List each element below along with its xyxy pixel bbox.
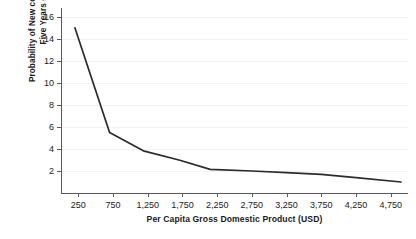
x-tick-label: 3,250 [275,200,298,210]
x-tick-mark [356,193,357,197]
x-tick-mark [182,193,183,197]
x-tick-mark [113,193,114,197]
y-tick-label: 2 [49,166,54,176]
x-tick-label: 1,750 [171,200,194,210]
x-tick-label: 4,750 [379,200,402,210]
y-axis-title-line1: Probability of New conflict within [27,0,38,82]
x-axis-title: Per Capita Gross Domestic Product (USD) [61,214,408,224]
y-tick-label: 10 [44,78,54,88]
x-tick-label: 250 [71,200,86,210]
x-tick-mark [287,193,288,197]
x-tick-label: 750 [106,200,121,210]
y-tick-label: 6 [49,122,54,132]
y-tick-label: 4 [49,144,54,154]
x-tick-mark [391,193,392,197]
x-tick-mark [217,193,218,197]
x-tick-label: 4,250 [345,200,368,210]
line-series-probability [75,28,401,182]
x-tick-label: 2,750 [241,200,264,210]
x-tick-label: 3,750 [310,200,333,210]
x-tick-label: 2,250 [206,200,229,210]
x-tick-mark [148,193,149,197]
plot-area: 246810121416 2507501,2501,7502,2502,7503… [61,8,408,193]
x-tick-label: 1,250 [136,200,159,210]
y-tick-label: 8 [49,100,54,110]
y-tick-label: 14 [44,34,54,44]
y-tick-label: 12 [44,56,54,66]
series-layer [61,8,408,193]
x-tick-mark [78,193,79,197]
y-tick-label: 16 [44,12,54,22]
chart-figure: Probability of New conflict within Five … [0,0,416,239]
x-tick-mark [321,193,322,197]
x-tick-mark [252,193,253,197]
